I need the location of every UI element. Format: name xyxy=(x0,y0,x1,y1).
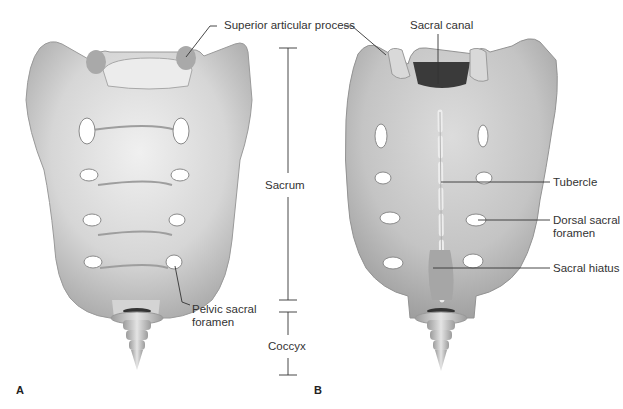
label-sacrum: Sacrum xyxy=(265,179,305,192)
label-tubercle: Tubercle xyxy=(553,176,597,189)
panel-label-b: B xyxy=(314,384,322,396)
label-pelvic-sacral-foramen: Pelvic sacral foramen xyxy=(192,303,257,329)
label-pelvic-sacral-foramen-line1: Pelvic sacral xyxy=(192,303,257,316)
sacrum-coccyx-figure: Superior articular process Sacral canal … xyxy=(0,0,623,409)
label-dorsal-sacral-foramen-line1: Dorsal sacral xyxy=(553,214,620,227)
label-dorsal-sacral-foramen-line2: foramen xyxy=(553,227,620,240)
figure-artwork xyxy=(0,0,623,409)
label-pelvic-sacral-foramen-line2: foramen xyxy=(192,316,257,329)
label-coccyx: Coccyx xyxy=(268,340,306,353)
sacrum-posterior xyxy=(345,39,557,318)
label-sacral-hiatus: Sacral hiatus xyxy=(553,262,619,275)
coccyx-posterior xyxy=(415,312,467,371)
label-superior-articular-process: Superior articular process xyxy=(224,19,355,32)
sacrum-anterior xyxy=(26,42,252,318)
coccyx-anterior xyxy=(111,312,163,370)
label-dorsal-sacral-foramen: Dorsal sacral foramen xyxy=(553,214,620,240)
panel-label-a: A xyxy=(16,384,24,396)
label-sacral-canal: Sacral canal xyxy=(410,19,473,32)
